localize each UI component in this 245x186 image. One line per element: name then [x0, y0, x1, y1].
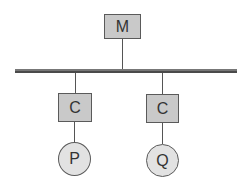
peripheral-p-connector [74, 122, 75, 142]
peripheral-node-q: Q [146, 144, 179, 177]
peripheral-node-p: P [58, 142, 91, 176]
controller-2-connector [162, 73, 163, 94]
peripheral-q-label: Q [156, 152, 168, 170]
master-connector [122, 39, 123, 70]
peripheral-q-connector [162, 123, 163, 144]
bus-diagram: M C P C Q [0, 0, 245, 186]
controller-node-1: C [58, 93, 92, 122]
master-label: M [116, 18, 129, 36]
peripheral-p-label: P [69, 150, 80, 168]
controller-1-label: C [69, 99, 81, 117]
bus-line-lower [15, 71, 237, 73]
master-node: M [104, 14, 141, 39]
controller-1-connector [75, 73, 76, 93]
controller-2-label: C [157, 100, 169, 118]
controller-node-2: C [146, 94, 179, 123]
